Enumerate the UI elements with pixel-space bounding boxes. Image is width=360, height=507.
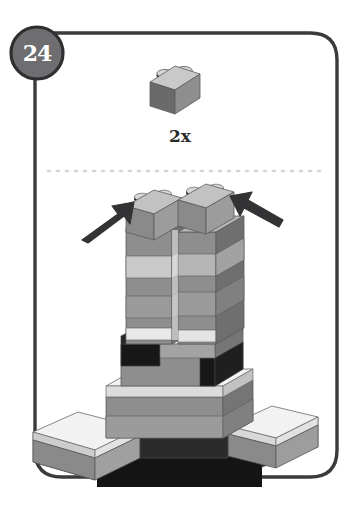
tower-gap bbox=[172, 230, 178, 340]
model-assembly bbox=[0, 0, 360, 507]
tower-right bbox=[178, 213, 244, 344]
instruction-card: 24 2x bbox=[0, 0, 360, 507]
